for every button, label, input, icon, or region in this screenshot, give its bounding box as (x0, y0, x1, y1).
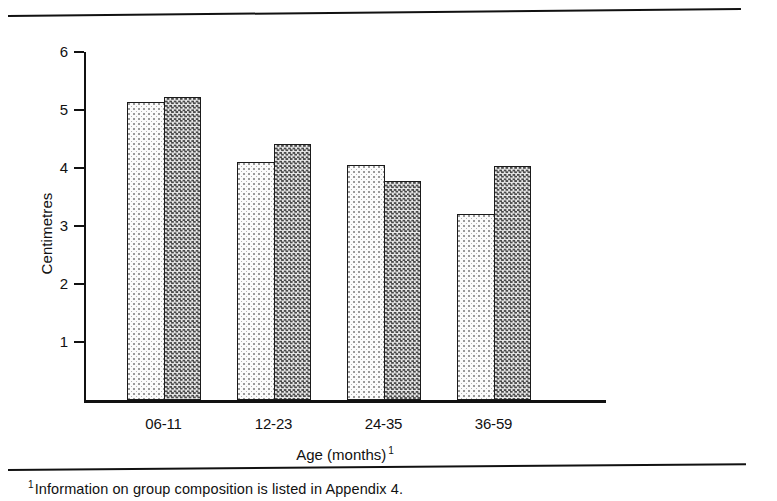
footnote: 1Information on group composition is lis… (28, 479, 403, 497)
x-axis-tick-label-36-59: 36-59 (439, 415, 549, 432)
y-axis-tick-label: 5 (42, 102, 68, 117)
bar-chart: 123456 Centimetres 06-1112-2324-3536-59 … (0, 0, 777, 501)
bar-12-23-light-dotted-series (237, 162, 275, 400)
y-axis-tick-label-text: 1 (46, 334, 68, 349)
x-axis-tick-label-24-35: 24-35 (329, 415, 439, 432)
y-axis-tick (74, 51, 84, 53)
y-axis-tick-label-text: 6 (46, 44, 68, 59)
footnote-text: Information on group composition is list… (35, 481, 403, 497)
bar-06-11-light-dotted-series (127, 102, 165, 400)
y-axis-line (84, 52, 86, 401)
bar-12-23-dark-checkered-series (274, 144, 312, 400)
bar-36-59-light-dotted-series (457, 214, 495, 400)
x-axis-tick-label-12-23: 12-23 (219, 415, 329, 432)
y-axis-tick (74, 283, 84, 285)
x-axis-line (84, 400, 606, 403)
y-axis-tick-label-text: 5 (46, 102, 68, 117)
y-axis-tick (74, 225, 84, 227)
x-axis-title: Age (months)1 (84, 445, 606, 463)
bar-24-35-light-dotted-series (347, 165, 385, 400)
bar-06-11-dark-checkered-series (164, 97, 202, 400)
x-axis-title-superscript: 1 (388, 445, 394, 456)
y-axis-tick-label: 6 (42, 44, 68, 59)
y-axis-tick (74, 167, 84, 169)
y-axis-tick-label: 1 (42, 334, 68, 349)
y-axis-title: Centimetres (38, 174, 55, 294)
x-axis-tick-label-06-11: 06-11 (109, 415, 219, 432)
bar-24-35-dark-checkered-series (384, 181, 422, 400)
bar-36-59-dark-checkered-series (494, 166, 532, 400)
y-axis-tick (74, 109, 84, 111)
y-axis-tick (74, 341, 84, 343)
footnote-marker: 1 (28, 479, 34, 490)
x-axis-title-text: Age (months) (296, 446, 386, 463)
